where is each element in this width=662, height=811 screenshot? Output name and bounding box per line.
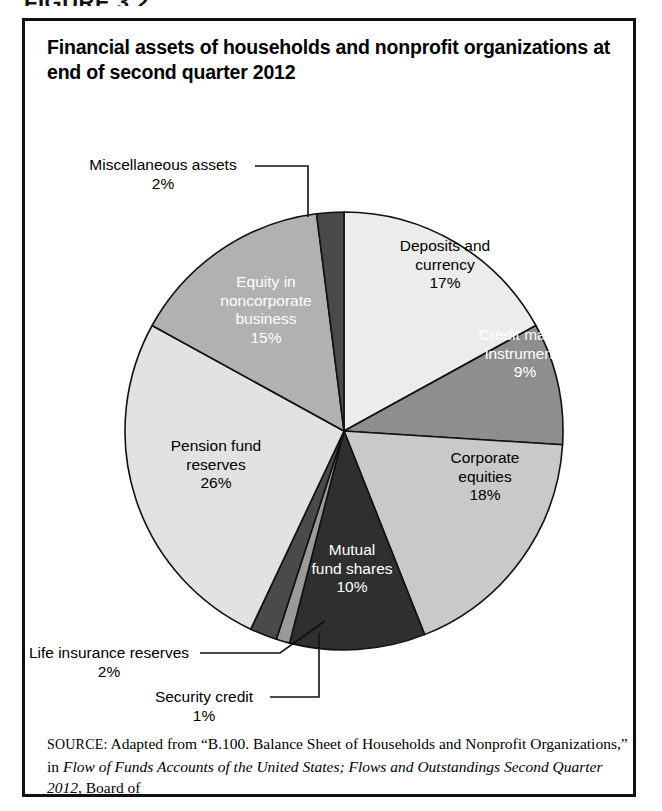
callout-value: 2%: [71, 174, 255, 193]
source-kicker: SOURCE:: [47, 737, 108, 752]
figure-panel: Financial assets of households and nonpr…: [22, 18, 636, 797]
slice-label-line2: instruments: [445, 345, 605, 364]
slice-label-line2: fund shares: [277, 560, 427, 579]
slice-label-line1: Credit market: [445, 326, 605, 345]
slice-value: 17%: [360, 274, 530, 293]
slice-value: 18%: [405, 486, 565, 505]
slice-value: 10%: [277, 578, 427, 597]
callout-label-text: Security credit: [137, 687, 271, 706]
slice-label-deposits-and-currency: Deposits and currency 17%: [360, 237, 530, 293]
callout-label-text: Life insurance reserves: [17, 643, 201, 662]
slice-label-line2: equities: [405, 468, 565, 487]
slice-label-pension-fund-reserves: Pension fund reserves 26%: [131, 437, 301, 493]
slice-label-line2: noncorporate: [176, 292, 356, 311]
slice-label-line3: business: [176, 310, 356, 329]
slice-label-line1: Equity in: [176, 273, 356, 292]
source-note: SOURCE: Adapted from “B.100. Balance She…: [47, 733, 629, 799]
figure-number-label: FIGURE 3.2: [24, 0, 149, 6]
slice-label-line2: currency: [360, 256, 530, 275]
leader-line-miscellaneous-assets: [255, 166, 308, 217]
slice-label-line1: Corporate: [405, 449, 565, 468]
slice-label-line1: Pension fund: [131, 437, 301, 456]
slice-label-credit-market-instruments: Credit market instruments 9%: [445, 326, 605, 382]
slice-value: 26%: [131, 474, 301, 493]
slice-label-corporate-equities: Corporate equities 18%: [405, 449, 565, 505]
slice-value: 9%: [445, 363, 605, 382]
slice-label-line1: Mutual: [277, 541, 427, 560]
slice-label-line2: reserves: [131, 456, 301, 475]
slice-value: 15%: [176, 329, 356, 348]
slice-label-line1: Deposits and: [360, 237, 530, 256]
callout-label-miscellaneous-assets: Miscellaneous assets 2%: [71, 155, 255, 193]
slice-label-equity-in-noncorporate-business: Equity in noncorporate business 15%: [176, 273, 356, 347]
callout-label-life-insurance-reserves: Life insurance reserves 2%: [17, 643, 201, 681]
callout-label-text: Miscellaneous assets: [71, 155, 255, 174]
callout-value: 1%: [137, 706, 271, 725]
callout-value: 2%: [17, 662, 201, 681]
pie-chart: Deposits and currency 17% Credit market …: [25, 21, 639, 721]
source-text-part2: , Board of: [78, 779, 140, 796]
callout-label-security-credit: Security credit 1%: [137, 687, 271, 725]
slice-label-mutual-fund-shares: Mutual fund shares 10%: [277, 541, 427, 597]
